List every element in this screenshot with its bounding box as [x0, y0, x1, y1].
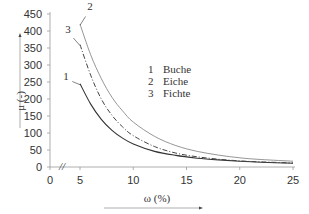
y-axis-arrowhead-icon [19, 33, 22, 37]
curve-label-leader [72, 82, 80, 85]
y-tick-label: 200 [24, 93, 42, 105]
axis-break-icon: // [58, 160, 66, 172]
legend-item-label: Buche [163, 63, 191, 75]
curve-label: 2 [87, 0, 93, 12]
x-tick-label: 0 [47, 174, 53, 186]
y-tick-label: 100 [24, 127, 42, 139]
x-tick-label: 20 [234, 174, 246, 186]
x-axis-title: ω (%) [144, 192, 171, 205]
x-tick-label: 10 [127, 174, 139, 186]
y-tick-label: 300 [24, 59, 42, 71]
curve-label-leader [73, 38, 80, 46]
y-axis: 050100150200250300350400450 [24, 8, 50, 173]
curve-label: 3 [65, 23, 71, 35]
y-tick-label: 450 [24, 8, 42, 20]
y-axis-title: μ (-) [14, 91, 27, 111]
legend-item-number: 3 [148, 87, 154, 99]
legend-item-number: 1 [148, 63, 154, 75]
y-tick-label: 50 [30, 144, 42, 156]
x-tick-label: 5 [77, 174, 83, 186]
moisture-diffusion-chart: 050100150200250300350400450 0510152025//… [0, 0, 309, 214]
x-axis: 0510152025// [47, 160, 299, 186]
y-tick-label: 250 [24, 76, 42, 88]
legend-item-number: 2 [148, 75, 154, 87]
legend-item-label: Eiche [163, 75, 188, 87]
legend-item-label: Fichte [163, 87, 191, 99]
y-tick-label: 0 [36, 161, 42, 173]
x-axis-arrowhead-icon [199, 207, 203, 210]
curve-label-leader [80, 17, 86, 26]
y-tick-label: 350 [24, 42, 42, 54]
legend: 1Buche2Eiche3Fichte [148, 63, 191, 99]
y-tick-label: 400 [24, 25, 42, 37]
curve-labels: 123 [63, 0, 93, 85]
x-tick-label: 15 [180, 174, 192, 186]
curve-label: 1 [63, 70, 69, 82]
y-tick-label: 150 [24, 110, 42, 122]
x-tick-label: 25 [287, 174, 299, 186]
